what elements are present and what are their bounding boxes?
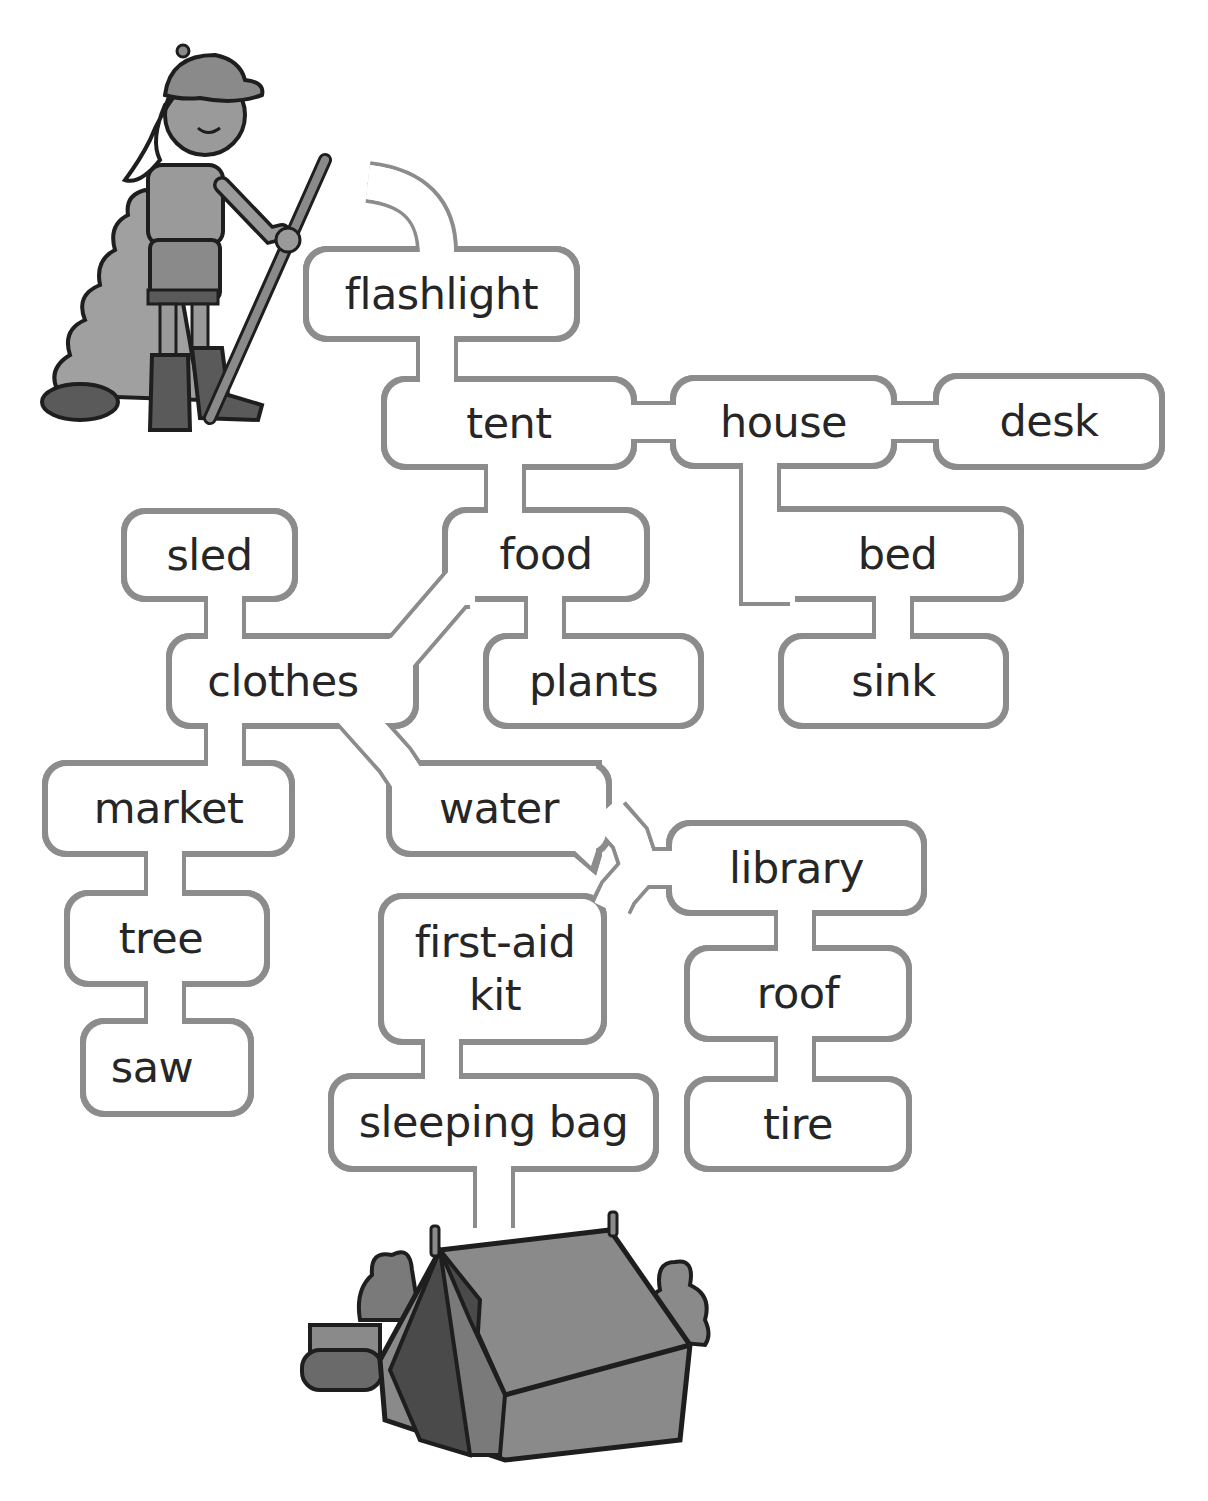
word-label: bed: [858, 528, 938, 581]
word-box-first-aid-kit[interactable]: first-aid kit: [380, 895, 610, 1043]
word-label: first-aid kit: [410, 916, 580, 1022]
word-maze: [0, 0, 1208, 1501]
word-label: market: [94, 782, 244, 835]
word-label: tire: [763, 1098, 833, 1151]
log-icon: [302, 1350, 382, 1390]
word-label: sleeping bag: [359, 1096, 629, 1149]
word-label: water: [439, 782, 559, 835]
word-label: clothes: [207, 655, 358, 708]
word-label: saw: [111, 1041, 193, 1094]
word-label: flashlight: [345, 268, 538, 321]
tent-illustration: [302, 1212, 709, 1460]
word-label: plants: [529, 655, 658, 708]
word-label: sink: [851, 655, 936, 708]
word-label: house: [720, 396, 847, 449]
word-label: library: [729, 842, 864, 895]
word-label: food: [499, 528, 592, 581]
cap-icon: [165, 55, 262, 101]
word-label: tree: [119, 912, 204, 965]
rock-icon: [42, 384, 118, 420]
word-label: desk: [999, 395, 1098, 448]
scout-girl-illustration: [42, 45, 325, 430]
boot-icon: [150, 355, 190, 430]
word-label: roof: [757, 967, 840, 1020]
word-label: tent: [466, 397, 551, 450]
word-label: sled: [166, 529, 252, 582]
